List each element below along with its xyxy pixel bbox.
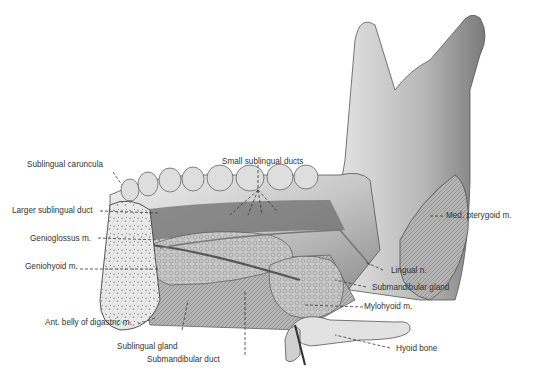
label-ant-belly-digastric: Ant. belly of digastric m. <box>45 318 132 327</box>
label-small-sublingual-ducts: Small sublingual ducts <box>222 157 303 166</box>
label-med-pterygoid: Med. pterygoid m. <box>446 211 512 220</box>
label-sublingual-caruncula: Sublingual caruncula <box>27 160 103 169</box>
label-mylohyoid: Mylohyoid m. <box>364 302 412 311</box>
label-sublingual-gland: Sublingual gland <box>117 342 178 351</box>
symphysis-section <box>100 201 160 330</box>
label-genioglossus: Genioglossus m. <box>30 234 91 243</box>
label-submandibular-duct: Submandibular duct <box>147 355 220 364</box>
label-geniohyoid: Geniohyoid m. <box>25 262 78 271</box>
label-hyoid-bone: Hyoid bone <box>396 344 437 353</box>
hyoid-bone-shape <box>285 317 410 365</box>
label-lingual-n: Lingual n. <box>391 266 427 275</box>
label-larger-sublingual-duct: Larger sublingual duct <box>12 206 93 215</box>
label-submandibular-gland: Submandibular gland <box>372 283 449 292</box>
